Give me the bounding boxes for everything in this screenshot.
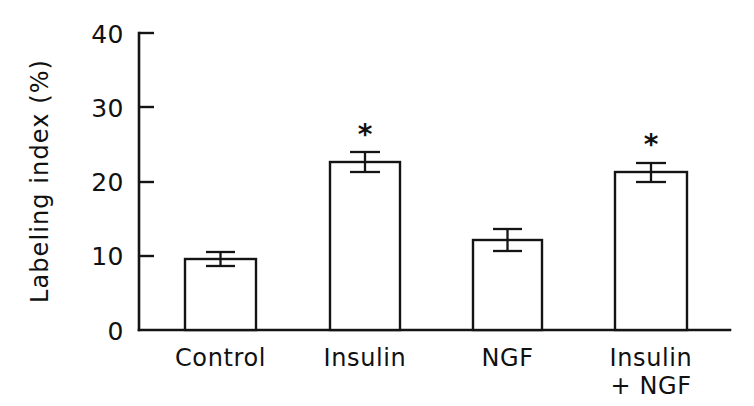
x-tick-label-control: Control (175, 344, 266, 372)
bar-control[interactable] (185, 259, 256, 330)
bar-insulin[interactable] (330, 162, 400, 330)
bar-chart: Labeling index (%) 40 30 20 10 0 Control (0, 0, 754, 406)
bar-ngf[interactable] (473, 240, 542, 330)
x-tick-label-insulin-ngf-line1: Insulin (610, 344, 693, 372)
y-tick-label-0: 0 (108, 317, 124, 346)
x-tick-label-insulin: Insulin (324, 344, 407, 372)
bar-group-insulin[interactable]: * Insulin (324, 118, 407, 372)
bar-group-control[interactable]: Control (175, 252, 266, 372)
x-tick-label-insulin-ngf-line2: + NGF (610, 372, 691, 400)
bar-group-insulin-ngf[interactable]: * Insulin + NGF (610, 128, 693, 400)
y-tick-label-20: 20 (91, 168, 124, 197)
bar-group-ngf[interactable]: NGF (473, 229, 542, 372)
bar-insulin-ngf[interactable] (615, 172, 687, 330)
x-tick-label-ngf: NGF (481, 344, 533, 372)
y-tick-label-30: 30 (91, 94, 124, 123)
y-axis-title: Labeling index (%) (26, 59, 54, 303)
y-tick-label-10: 10 (91, 242, 124, 271)
chart-figure: Labeling index (%) 40 30 20 10 0 Control (0, 0, 754, 406)
y-tick-label-40: 40 (91, 20, 124, 49)
significance-marker-insulin-ngf: * (644, 128, 659, 161)
significance-marker-insulin: * (358, 118, 373, 151)
